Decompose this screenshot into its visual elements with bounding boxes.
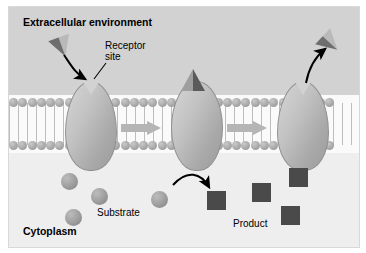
phospholipid-head [158, 98, 167, 107]
phospholipid-head [130, 141, 139, 150]
phospholipid-head [241, 141, 250, 150]
phospholipid-head [9, 141, 18, 150]
triangle-right-facet [193, 69, 205, 91]
phospholipid-head [223, 98, 232, 107]
phospholipid-head [148, 141, 157, 150]
phospholipid-head [158, 141, 167, 150]
diagram-panel: Extracellular environment Receptor site … [8, 6, 360, 248]
phospholipid-head [148, 98, 157, 107]
phospholipid-head [269, 98, 278, 107]
product-square [252, 183, 271, 202]
phospholipid-head [55, 98, 64, 107]
phospholipid-head [55, 141, 64, 150]
extracellular-environment-label: Extracellular environment [23, 17, 152, 29]
phospholipid-head [18, 141, 27, 150]
arrow-shaft [227, 124, 254, 132]
carrier-protein-closed-transport [171, 81, 223, 171]
phospholipid-head [46, 98, 55, 107]
product-square [281, 206, 300, 225]
substrate-sphere [91, 188, 108, 205]
phospholipid-head [28, 98, 37, 107]
product-square [289, 168, 308, 187]
cytoplasm-label: Cytoplasm [23, 226, 77, 238]
product-square [207, 191, 226, 210]
receptor-site-label: Receptor site [105, 40, 146, 62]
phospholipid-head [241, 98, 250, 107]
phospholipid-head [139, 141, 148, 150]
substrate-label: Substrate [97, 207, 140, 218]
phospholipid-head [121, 98, 130, 107]
substrate-triangle-bound [181, 69, 205, 91]
substrate-sphere [61, 173, 78, 190]
transition-arrow-1 [121, 121, 161, 135]
phospholipid-head [9, 98, 18, 107]
phospholipid-head [139, 98, 148, 107]
phospholipid-head [28, 141, 37, 150]
phospholipid-head [121, 141, 130, 150]
phospholipid-head [223, 141, 232, 150]
figure-canvas: Extracellular environment Receptor site … [0, 0, 366, 253]
phospholipid-head [130, 98, 139, 107]
phospholipid-head [260, 98, 269, 107]
substrate-sphere [65, 209, 82, 226]
phospholipid-head [37, 98, 46, 107]
arrow-head [253, 121, 267, 135]
arrow-shaft [121, 124, 148, 132]
phospholipid-head [260, 141, 269, 150]
phospholipid-head [232, 98, 241, 107]
phospholipid-head [251, 141, 260, 150]
substrate-sphere [151, 191, 168, 208]
transition-arrow-2 [227, 121, 267, 135]
phospholipid-head [46, 141, 55, 150]
phospholipid-head [251, 98, 260, 107]
phospholipid-head [325, 98, 334, 107]
phospholipid-head [232, 141, 241, 150]
product-label: Product [233, 218, 267, 229]
triangle-left-facet [181, 69, 193, 91]
phospholipid-head [18, 98, 27, 107]
phospholipid-head [37, 141, 46, 150]
arrow-head [147, 121, 161, 135]
